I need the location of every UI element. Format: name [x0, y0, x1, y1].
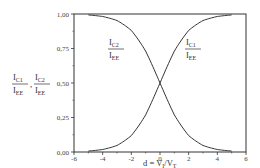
y-axis-ticks: 0,000,250,500,751,00 [57, 11, 74, 157]
curve-label-ic1: IC1 IEE [185, 37, 201, 61]
y-tick-label: 0,00 [57, 149, 70, 157]
x-axis-label: d = VI/VT [143, 158, 177, 168]
svg-text:IEE: IEE [13, 85, 24, 96]
x-tick-label: -6 [71, 155, 77, 163]
x-tick-label: 2 [187, 155, 191, 163]
x-tick-label: 4 [216, 155, 220, 163]
transfer-characteristic-chart: 0,000,250,500,751,00 -6-4-20246 IC2 IEE … [0, 0, 260, 168]
y-tick-label: 1,00 [57, 11, 70, 19]
svg-text:IC1: IC1 [13, 72, 23, 83]
curve-label-ic2: IC2 IEE [108, 37, 124, 61]
x-tick-label: 6 [244, 155, 248, 163]
svg-text:IEE: IEE [186, 50, 197, 61]
y-axis-label: IC1 IEE , IC2 IEE [12, 72, 50, 96]
svg-text:IC2: IC2 [35, 72, 45, 83]
x-tick-label: -4 [100, 155, 106, 163]
curve-ic2 [88, 15, 231, 151]
y-tick-label: 0,25 [57, 114, 70, 122]
x-tick-label: -2 [128, 155, 134, 163]
svg-text:IC2: IC2 [109, 37, 119, 48]
y-tick-label: 0,50 [57, 80, 70, 88]
y-tick-label: 0,75 [57, 45, 70, 53]
svg-text:IEE: IEE [109, 50, 120, 61]
svg-text:,: , [30, 79, 32, 89]
svg-text:IC1: IC1 [186, 37, 196, 48]
curves [88, 15, 231, 151]
svg-text:IEE: IEE [35, 85, 46, 96]
